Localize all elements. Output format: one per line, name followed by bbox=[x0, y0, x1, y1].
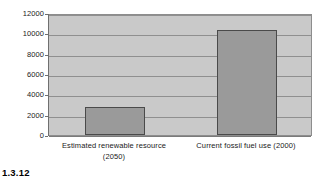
y-axis-line bbox=[48, 14, 49, 136]
plot-area bbox=[48, 14, 312, 136]
y-tickmark-0 bbox=[45, 136, 48, 137]
figure: 020004000600080001000012000 Estimated re… bbox=[0, 0, 322, 183]
bar-series bbox=[49, 15, 311, 135]
y-ticklabel-12000: 12000 bbox=[0, 10, 44, 18]
x-ticklabel-1: Current fossil fuel use (2000) bbox=[180, 140, 312, 151]
y-ticklabel-0: 0 bbox=[0, 132, 44, 140]
bar-0 bbox=[85, 107, 145, 135]
x-ticklabel-line1: Current fossil fuel use (2000) bbox=[196, 141, 295, 150]
y-ticklabel-4000: 4000 bbox=[0, 91, 44, 99]
y-axis-ticklabels: 020004000600080001000012000 bbox=[0, 14, 44, 136]
y-ticklabel-8000: 8000 bbox=[0, 51, 44, 59]
x-axis-ticklabels: Estimated renewable resource(2050)Curren… bbox=[48, 140, 312, 170]
bar-1 bbox=[217, 30, 277, 135]
y-ticklabel-10000: 10000 bbox=[0, 30, 44, 38]
gridline-0 bbox=[49, 136, 311, 137]
x-ticklabel-line1: Estimated renewable resource bbox=[62, 141, 166, 150]
y-ticklabel-6000: 6000 bbox=[0, 71, 44, 79]
x-ticklabel-line2: (2050) bbox=[48, 151, 180, 162]
y-ticklabel-2000: 2000 bbox=[0, 112, 44, 120]
x-ticklabel-0: Estimated renewable resource(2050) bbox=[48, 140, 180, 162]
figure-caption: 1.3.12 bbox=[2, 167, 30, 178]
